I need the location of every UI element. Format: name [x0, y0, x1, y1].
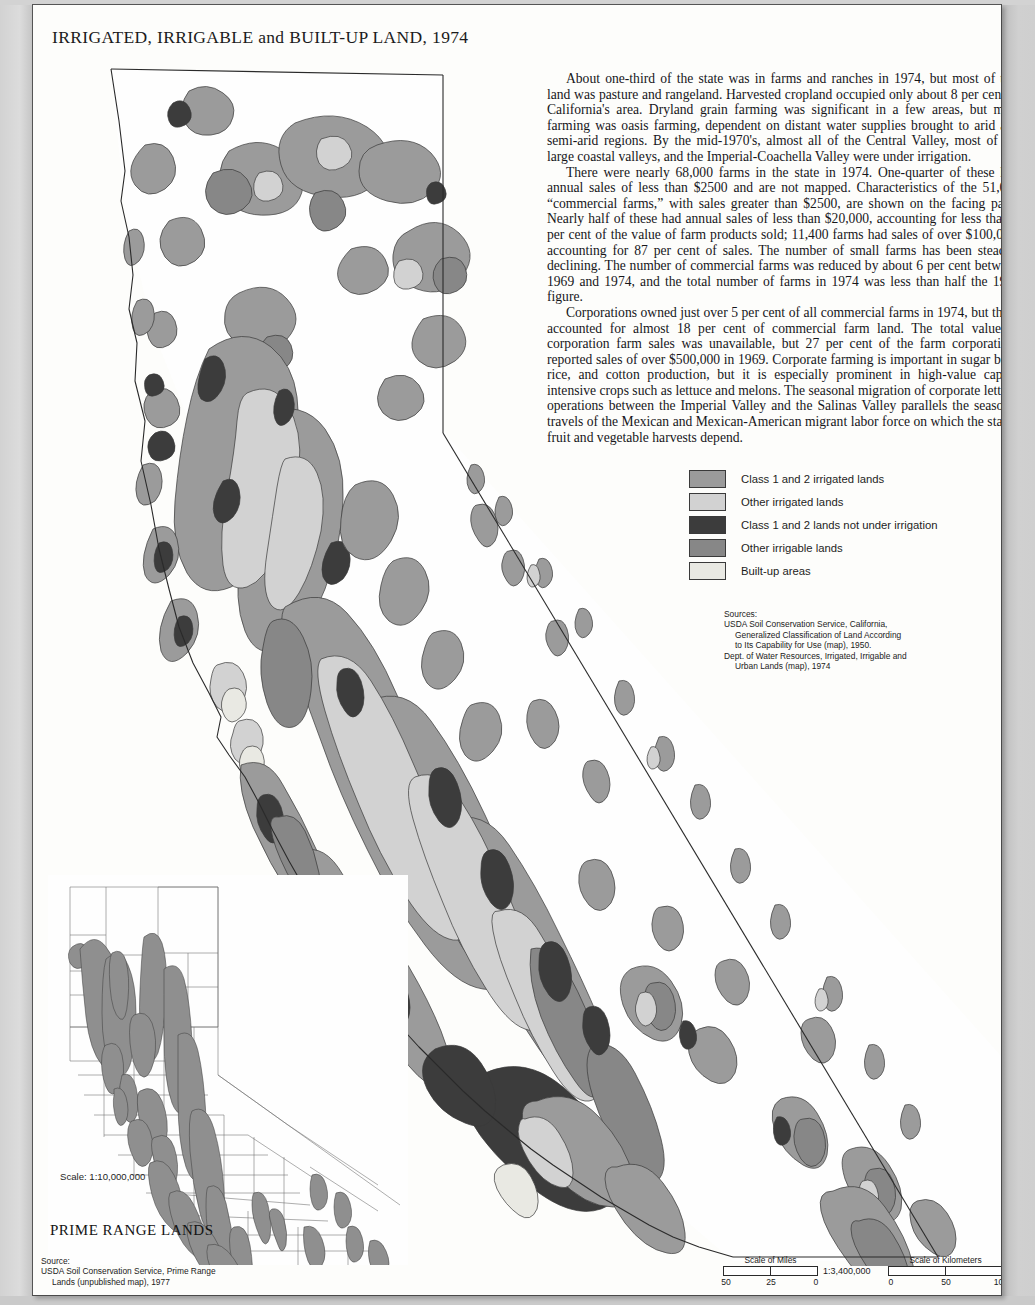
legend-item-other-irrigable: Other irrigable lands — [689, 536, 1002, 559]
legend-item-other-irrigated: Other irrigated lands — [689, 490, 1002, 513]
legend-swatch-icon — [689, 562, 726, 580]
legend-swatch-icon — [689, 516, 726, 534]
narrative-paragraph-2: There were nearly 68,000 farms in the st… — [547, 165, 1002, 305]
sources-line: Lands (unpublished map), 1977 — [41, 1277, 216, 1287]
legend-swatch-icon — [689, 470, 726, 488]
scale-tick: 0 — [889, 1277, 894, 1287]
sources-line: Urban Lands (map), 1974 — [724, 661, 907, 671]
legend-item-class-1-2-irrigated: Class 1 and 2 irrigated lands — [689, 467, 1002, 490]
legend-item-class-1-2-not-irrigated: Class 1 and 2 lands not under irrigation — [689, 513, 1002, 536]
inset-map-title: PRIME RANGE LANDS — [50, 1222, 214, 1239]
scale-tick: 50 — [941, 1277, 951, 1287]
scale-tick: 25 — [766, 1277, 776, 1287]
legend-label: Other irrigated lands — [741, 496, 843, 508]
page-margin-right — [1002, 0, 1035, 1305]
sources-heading: Sources: — [724, 609, 907, 619]
legend-label: Other irrigable lands — [741, 542, 843, 554]
page-margin-bottom — [0, 1296, 1035, 1305]
scale-tick: 50 — [721, 1277, 731, 1287]
scale-bar-miles-caption: Scale of Miles — [723, 1255, 818, 1265]
atlas-page: IRRIGATED, IRRIGABLE and BUILT-UP LAND, … — [32, 4, 1002, 1296]
scale-bar-km-bar — [888, 1266, 1002, 1276]
scale-bar-kilometers: Scale of Kilometers 0 50 100 — [888, 1255, 1002, 1287]
scale-tick: 100 — [994, 1277, 1002, 1287]
scale-tick: 0 — [814, 1277, 819, 1287]
scale-bar-miles-bar — [723, 1266, 818, 1276]
inset-map-prime-range-lands — [48, 875, 408, 1265]
scale-bar-miles: Scale of Miles 50 25 0 — [723, 1255, 818, 1287]
sources-line: USDA Soil Conservation Service, Prime Ra… — [41, 1266, 216, 1276]
sources-line: Generalized Classification of Land Accor… — [724, 630, 907, 640]
sources-line: Dept. of Water Resources, Irrigated, Irr… — [724, 651, 907, 661]
narrative-paragraph-3: Corporations owned just over 5 per cent … — [547, 305, 1002, 445]
scale-bar-km-ticks: 0 50 100 — [888, 1276, 1002, 1287]
sources-note-main-map: Sources: USDA Soil Conservation Service,… — [724, 609, 907, 671]
page-margin-left — [0, 0, 33, 1305]
scale-bar-km-caption: Scale of Kilometers — [888, 1255, 1002, 1265]
legend-label: Class 1 and 2 lands not under irrigation — [741, 519, 938, 531]
sources-heading: Source: — [41, 1256, 216, 1266]
sources-line: USDA Soil Conservation Service, Californ… — [724, 619, 907, 629]
page-title: IRRIGATED, IRRIGABLE and BUILT-UP LAND, … — [52, 27, 468, 48]
sources-note-inset-map: Source: USDA Soil Conservation Service, … — [41, 1256, 216, 1287]
representative-fraction: 1:3,400,000 — [823, 1266, 871, 1276]
legend-label: Built-up areas — [741, 565, 811, 577]
inset-scale-label: Scale: 1:10,000,000 — [60, 1171, 145, 1182]
narrative-paragraph-1: About one-third of the state was in farm… — [547, 71, 1002, 165]
legend-swatch-icon — [689, 493, 726, 511]
legend-label: Class 1 and 2 irrigated lands — [741, 473, 884, 485]
narrative-text: About one-third of the state was in farm… — [547, 71, 1002, 445]
legend-swatch-icon — [689, 539, 726, 557]
scale-bar-miles-ticks: 50 25 0 — [723, 1276, 818, 1287]
sources-line: to Its Capability for Use (map), 1950. — [724, 640, 907, 650]
legend-item-built-up: Built-up areas — [689, 559, 1002, 582]
map-legend: Class 1 and 2 irrigated lands Other irri… — [689, 467, 1002, 582]
